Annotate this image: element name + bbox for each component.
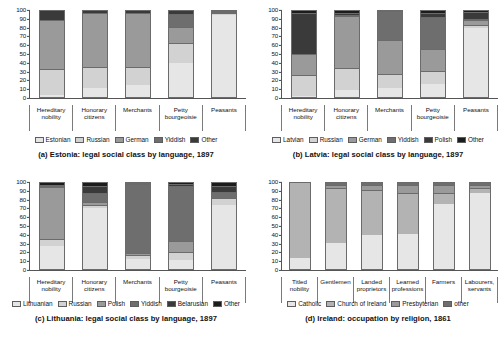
bar-segment (169, 186, 193, 241)
stacked-bar[interactable] (39, 10, 65, 98)
legend-item[interactable]: Catholic (287, 300, 321, 307)
stacked-bar[interactable] (469, 182, 491, 270)
legend-item[interactable]: Estonian (35, 136, 71, 143)
legend-item[interactable]: Russian (75, 136, 109, 143)
bar-slot (368, 10, 411, 98)
legend-swatch-icon (130, 301, 139, 307)
legend-label: Russian (320, 136, 343, 143)
legend-swatch-icon (424, 137, 433, 143)
legend-item[interactable]: Polish (424, 136, 452, 143)
legend-item[interactable]: Russian (309, 136, 343, 143)
stacked-bar[interactable] (377, 10, 403, 98)
legend-item[interactable]: Lithuanian (12, 300, 53, 307)
y-tick-label: 30 (20, 240, 26, 246)
category-label-text: Honorary citizens (325, 106, 367, 121)
stacked-bar[interactable] (82, 10, 108, 98)
legend-label: Yiddish (141, 300, 162, 307)
stacked-bar[interactable] (211, 10, 237, 98)
bar-slot (203, 182, 246, 270)
stacked-bar[interactable] (433, 182, 455, 270)
stacked-bar[interactable] (291, 10, 317, 98)
legend-item[interactable]: Other (457, 136, 484, 143)
legend-label: Polish (108, 300, 125, 307)
legend-swatch-icon (213, 301, 222, 307)
bar-segment (398, 193, 418, 234)
stacked-bar[interactable] (211, 182, 237, 270)
bar-segment (40, 69, 64, 95)
legend-label: Belarusian (178, 300, 208, 307)
stacked-bar[interactable] (463, 10, 489, 98)
bar-segment (212, 198, 236, 205)
legend-item[interactable]: Russian (58, 300, 92, 307)
legend-item[interactable]: Belarusian (167, 300, 208, 307)
category-label-text: Honorary citizens (73, 278, 115, 293)
x-axis-line-a (29, 98, 246, 99)
stacked-bar[interactable] (168, 10, 194, 98)
bar-segment (169, 27, 193, 43)
legend-item[interactable]: Polish (97, 300, 125, 307)
legend-swatch-icon (190, 137, 199, 143)
legend-item[interactable]: German (115, 136, 149, 143)
legend-swatch-icon (154, 137, 163, 143)
legend-label: Presbyterian (402, 300, 438, 307)
legend-label: Polish (435, 136, 452, 143)
bar-segment (362, 190, 382, 235)
legend-item[interactable]: Latvian (272, 136, 304, 143)
legend-swatch-icon (309, 137, 318, 143)
bar-segment (421, 84, 445, 97)
stacked-bar[interactable] (82, 182, 108, 270)
bar-segment (169, 252, 193, 260)
bar-segment (83, 208, 107, 269)
y-tick-label: 90 (20, 16, 26, 22)
bar-segment (335, 16, 359, 69)
stacked-bar[interactable] (325, 182, 347, 270)
stacked-bar[interactable] (125, 10, 151, 98)
legend-item[interactable]: Other (190, 136, 217, 143)
y-tick-label: 10 (272, 86, 278, 92)
stacked-bar[interactable] (125, 182, 151, 270)
legend-label: other (454, 300, 469, 307)
y-tick-label: 50 (20, 51, 26, 57)
bar-segment (421, 71, 445, 84)
category-label-text: Learned professions (390, 278, 425, 293)
category-label-cell: Honorary citizens (72, 105, 116, 131)
stacked-bar[interactable] (361, 182, 383, 270)
y-tick-label: 50 (20, 223, 26, 229)
legend-swatch-icon (348, 137, 357, 143)
category-label-text: Titled nobility (282, 278, 317, 293)
bar-slot (116, 182, 159, 270)
y-tick-label: 10 (272, 258, 278, 264)
stacked-bars-c (30, 182, 246, 270)
caption-c: (c) Lithuania: legal social class by lan… (0, 314, 252, 323)
bar-segment (212, 205, 236, 269)
legend-item[interactable]: Yiddish (130, 300, 162, 307)
bar-slot (73, 182, 116, 270)
legend-b: LatvianRussianGermanYiddishPolishOther (252, 136, 504, 143)
bar-slot (30, 182, 73, 270)
legend-item[interactable]: Other (213, 300, 240, 307)
stacked-bar[interactable] (397, 182, 419, 270)
legend-item[interactable]: Presbyterian (391, 300, 438, 307)
legend-swatch-icon (75, 137, 84, 143)
stacked-bars-a (30, 10, 246, 98)
legend-item[interactable]: Yiddish (154, 136, 186, 143)
bar-segment (40, 239, 64, 246)
legend-item[interactable]: German (348, 136, 382, 143)
legend-label: Lithuanian (23, 300, 53, 307)
stacked-bar[interactable] (420, 10, 446, 98)
bar-segment (126, 85, 150, 97)
stacked-bar[interactable] (334, 10, 360, 98)
stacked-bar[interactable] (39, 182, 65, 270)
y-tick-label: 30 (272, 68, 278, 74)
bar-segment (378, 40, 402, 75)
bar-segment (126, 259, 150, 269)
bar-segment (326, 243, 346, 269)
legend-item[interactable]: other (443, 300, 469, 307)
legend-item[interactable]: Church of Ireland (326, 300, 386, 307)
stacked-bar[interactable] (289, 182, 311, 270)
stacked-bar[interactable] (168, 182, 194, 270)
plot-area-b: 0102030405060708090100 Hereditary nobili… (252, 6, 504, 106)
legend-item[interactable]: Yiddish (387, 136, 419, 143)
y-tick-label: 40 (20, 60, 26, 66)
bar-slot (73, 10, 116, 98)
